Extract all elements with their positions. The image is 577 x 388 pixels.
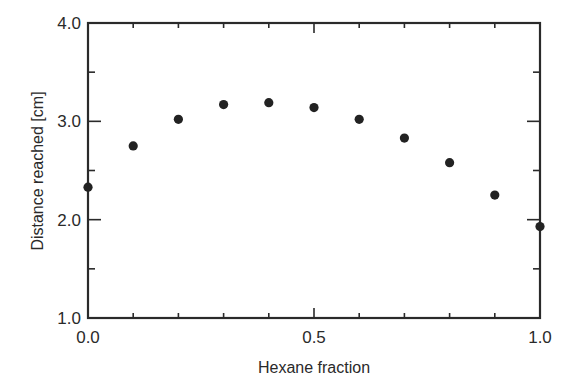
plot-axes: 0.00.51.01.02.03.04.0 xyxy=(57,14,551,347)
plot-frame xyxy=(88,23,540,318)
y-tick-label: 4.0 xyxy=(57,14,81,33)
x-axis-label: Hexane fraction xyxy=(258,359,370,376)
y-tick-label: 3.0 xyxy=(57,112,81,131)
y-tick-label: 1.0 xyxy=(57,309,81,328)
data-point xyxy=(129,141,138,150)
data-point xyxy=(219,100,228,109)
scatter-chart: 0.00.51.01.02.03.04.0 Hexane fraction Di… xyxy=(0,0,577,388)
data-point xyxy=(355,115,364,124)
x-tick-label: 0.5 xyxy=(302,328,326,347)
data-point xyxy=(490,190,499,199)
data-point xyxy=(174,115,183,124)
data-point xyxy=(445,158,454,167)
x-tick-label: 1.0 xyxy=(528,328,552,347)
y-axis-label: Distance reached [cm] xyxy=(29,91,46,250)
x-tick-label: 0.0 xyxy=(76,328,100,347)
data-point xyxy=(309,103,318,112)
data-points xyxy=(83,98,544,231)
y-tick-label: 2.0 xyxy=(57,211,81,230)
data-point xyxy=(83,183,92,192)
data-point xyxy=(400,133,409,142)
data-point xyxy=(264,98,273,107)
data-point xyxy=(535,222,544,231)
